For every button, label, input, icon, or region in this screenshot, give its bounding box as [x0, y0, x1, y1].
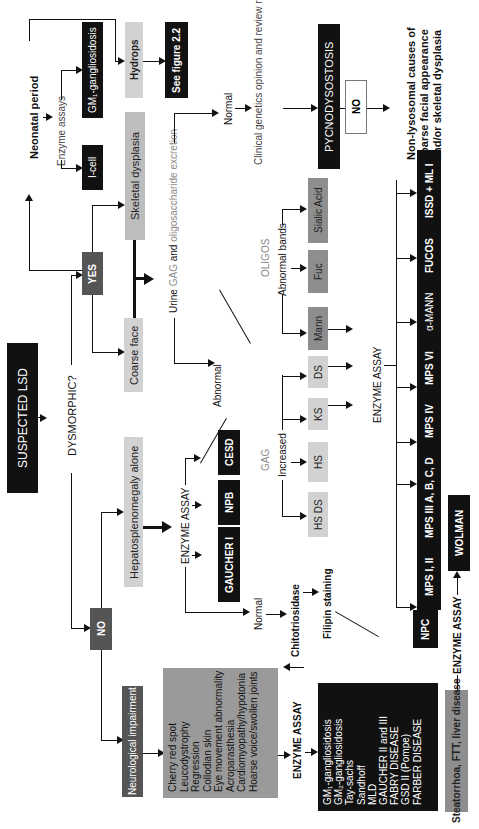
neonatal-period-label: Neonatal period [25, 75, 43, 160]
symptom: Acroparasthesia [225, 674, 237, 792]
npb-box: NPB [218, 480, 240, 525]
enzyme-assay-label-wolman: ENZYME ASSAY [450, 595, 465, 675]
gag-box-hs: HS [308, 442, 328, 482]
disease: Sandhoff [356, 689, 367, 805]
symptom: Eye movement abnormality [213, 674, 225, 792]
steatorrhoa-box: Steatorrhoa, FTT, liver disease [445, 690, 468, 812]
abnormal-bands-label: Abnormal bands [276, 225, 288, 295]
result-alpha-mann: α-MANN [424, 293, 435, 332]
suspected-lsd-box: SUSPECTED LSD [7, 343, 38, 493]
disease: MLD [367, 689, 378, 805]
skeletal-dysplasia-box: Skeletal dysplasia [125, 112, 145, 240]
results-bar: MPS I, II MPS III A, B, C, D MPS IV MPS … [417, 150, 441, 610]
gm1-box: GM₁-gangliosidosis [82, 22, 103, 118]
disease: GM₁-gangliosidosis [322, 689, 333, 805]
cesd-box: CESD [218, 430, 240, 475]
disease: GM₂-gangliosidosis [333, 689, 344, 805]
wolman-box: WOLMAN [448, 495, 470, 571]
filipin-staining-label: Filipin staining [320, 565, 335, 643]
hepatosplenomegaly-box: Hepatosplenomegaly alone [124, 437, 143, 587]
urine-test-label: Urine GAG and oligosaccharide excretion [168, 148, 180, 313]
symptom: Hoarse voice/swollen joints [248, 674, 260, 792]
chitotriosidase-label: Chitotriosidase [288, 580, 303, 662]
dysmorphic-question: DYSMORPHIC? [64, 370, 80, 462]
symptoms-box: Cherry red spot Leucodystrophy Regressio… [163, 668, 278, 798]
see-figure-box: See figure 2.2 [165, 22, 188, 98]
oligo-box-mann: Mann [308, 307, 328, 350]
enzyme-assays-label: Enzyme assays [55, 100, 68, 162]
result-mps-vi: MPS VI [424, 351, 435, 385]
clinical-genetics-label: Clinical genetics opinion and review rad… [253, 45, 265, 165]
non-lysosomal-label: Non-lysosomal causes ofcoarse facial app… [405, 25, 453, 160]
gag-box-ks: KS [308, 398, 328, 430]
enzyme-assay-label-neuro: ENZYME ASSAY [290, 700, 305, 780]
increased-label: Increased [276, 430, 288, 480]
disease: GSD II (Pompe) [400, 689, 411, 805]
gag-box-ds: DS [308, 356, 328, 388]
oligo-box-fuc: Fuc [308, 250, 328, 293]
no-outline-box: NO [345, 80, 367, 134]
symptom: Leucodystrophy [179, 674, 191, 792]
oligos-label: OLIGOS [258, 238, 272, 278]
icell-box: I-cell [82, 145, 103, 190]
gag-box-hs-ds: HS DS [308, 492, 328, 537]
result-mps-iii: MPS III A, B, C, D [424, 458, 435, 539]
abnormal-label: Abnormal [210, 358, 224, 413]
enzyme-assay-label-hepato: ENZYME ASSAY [178, 485, 192, 567]
symptom: Regression [190, 674, 202, 792]
result-mps-i-ii: MPS I, II [424, 558, 435, 596]
disease: Tay-sachs [344, 689, 355, 805]
coarse-face-box: Coarse face [124, 318, 143, 392]
pycnodysostosis-box: PYCNODYSOSTOSIS [318, 24, 340, 169]
symptom: Cardiomyopathy/hypotonia [236, 674, 248, 792]
hydrops-box: Hydrops [125, 22, 143, 98]
result-mps-iv: MPS IV [424, 404, 435, 438]
yes-box: YES [82, 252, 103, 295]
symptom: Collodian skin [202, 674, 214, 792]
oligo-box-sialic-acid: Sialic Acid [308, 178, 328, 243]
result-issd: ISSD + ML I [424, 164, 435, 219]
neuro-diseases-box: GM₁-gangliosidosis GM₂-gangliosidosis Ta… [318, 683, 438, 811]
npc-box: NPC [413, 610, 438, 648]
normal-label-hepato: Normal [252, 595, 265, 633]
disease: FABRY DISEASE [389, 689, 400, 805]
disease: FARBER DISEASE [412, 689, 423, 805]
neurological-impairment-box: Neurological impairment [122, 686, 143, 797]
result-fucos: FUCOS [424, 238, 435, 273]
enzyme-assay-label-gag: ENZYME ASSAY [370, 345, 384, 425]
no-box: NO [90, 608, 112, 650]
normal-label: Normal [222, 90, 235, 128]
gaucher-i-box: GAUCHER I [218, 527, 240, 602]
disease: GAUCHER II and III [378, 689, 389, 805]
arrow [40, 414, 47, 422]
gag-label: GAG [258, 447, 272, 473]
symptom: Cherry red spot [167, 674, 179, 792]
